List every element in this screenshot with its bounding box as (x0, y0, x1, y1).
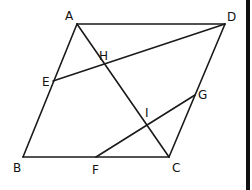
label-E: E (42, 75, 50, 89)
label-D: D (227, 10, 236, 24)
segment-DC (169, 24, 225, 157)
label-B: B (13, 161, 21, 175)
segment-ED (53, 24, 225, 81)
label-I: I (145, 106, 149, 120)
segment-AB (23, 24, 77, 157)
label-G: G (198, 88, 207, 102)
label-A: A (65, 9, 74, 23)
label-F: F (92, 163, 99, 177)
diagonal-AC (77, 24, 169, 157)
segment-FG (96, 95, 195, 157)
label-C: C (172, 161, 180, 175)
right-edge-border (246, 0, 250, 190)
label-H: H (99, 49, 108, 63)
parallelogram-diagram: A D H E G I B F C (0, 0, 252, 190)
